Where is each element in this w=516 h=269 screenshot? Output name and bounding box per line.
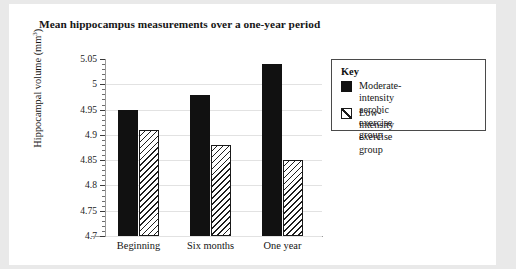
y-minor-tick-mark <box>102 175 105 176</box>
y-minor-tick-mark <box>102 99 105 100</box>
y-minor-tick-mark <box>102 190 105 191</box>
y-axis-title-exponent: 3 <box>31 32 39 36</box>
y-minor-tick-mark <box>102 64 105 65</box>
y-tick-label: 4.95 <box>80 105 97 115</box>
x-tick-label-one-year: One year <box>233 240 333 251</box>
y-minor-tick-mark <box>102 140 105 141</box>
y-tick-label: 5.05 <box>80 54 97 64</box>
y-tick-mark <box>100 211 105 212</box>
chart-card: Mean hippocampus measurements over a one… <box>9 4 496 265</box>
y-minor-tick-mark <box>102 201 105 202</box>
y-tick-label: 4.75 <box>80 206 97 216</box>
chart-title: Mean hippocampus measurements over a one… <box>39 18 320 30</box>
gridline <box>106 84 322 85</box>
y-minor-tick-mark <box>102 170 105 171</box>
bar-moderate-six-months <box>190 95 211 236</box>
y-minor-tick-mark <box>102 79 105 80</box>
y-minor-tick-mark <box>102 216 105 217</box>
y-minor-tick-mark <box>102 105 105 106</box>
y-tick-label: 5 <box>92 79 97 89</box>
bar-low-one-year <box>283 160 304 236</box>
solid-black-square-icon <box>341 81 352 92</box>
y-axis-title-paren: ) <box>32 29 43 32</box>
y-tick-label: 4.9 <box>85 130 97 140</box>
y-minor-tick-mark <box>102 94 105 95</box>
y-minor-tick-mark <box>102 165 105 166</box>
bar-moderate-beginning <box>118 110 139 236</box>
gridline <box>106 110 322 111</box>
y-axis-tick-labels: 4.74.754.84.854.94.9555.05 <box>53 59 97 237</box>
legend-item-label: Low-intensity exercise group <box>359 107 394 156</box>
y-minor-tick-mark <box>102 196 105 197</box>
y-minor-tick-mark <box>102 206 105 207</box>
y-minor-tick-mark <box>102 180 105 181</box>
y-minor-tick-mark <box>102 221 105 222</box>
y-minor-tick-mark <box>102 150 105 151</box>
y-minor-tick-mark <box>102 130 105 131</box>
y-minor-tick-mark <box>102 226 105 227</box>
y-tick-label: 4.85 <box>80 155 97 165</box>
y-minor-tick-mark <box>102 231 105 232</box>
y-minor-tick-mark <box>102 69 105 70</box>
plot-area <box>106 59 322 236</box>
y-axis-title-text: Hippocampal volume (mm <box>32 36 43 148</box>
y-minor-tick-mark <box>102 115 105 116</box>
bar-moderate-one-year <box>262 64 283 236</box>
y-tick-mark <box>100 160 105 161</box>
y-axis-title: Hippocampal volume (mm3) <box>31 8 43 168</box>
legend-title: Key <box>341 66 359 77</box>
chart-legend: Key Moderate-intensity aerobic exercise … <box>331 59 486 131</box>
y-minor-tick-mark <box>102 120 105 121</box>
y-minor-tick-mark <box>102 74 105 75</box>
bar-low-beginning <box>139 130 160 236</box>
y-minor-tick-mark <box>102 145 105 146</box>
bar-low-six-months <box>211 145 232 236</box>
screenshot-root: Mean hippocampus measurements over a one… <box>0 0 516 269</box>
y-tick-mark <box>100 110 105 111</box>
y-tick-mark <box>100 59 105 60</box>
y-tick-mark <box>100 236 105 237</box>
gridline <box>106 236 322 237</box>
y-tick-label: 4.8 <box>85 180 97 190</box>
y-minor-tick-mark <box>102 89 105 90</box>
y-tick-mark <box>100 84 105 85</box>
y-tick-mark <box>100 185 105 186</box>
y-minor-tick-mark <box>102 155 105 156</box>
y-minor-tick-mark <box>102 125 105 126</box>
y-tick-mark <box>100 135 105 136</box>
hatched-square-icon <box>341 108 352 119</box>
